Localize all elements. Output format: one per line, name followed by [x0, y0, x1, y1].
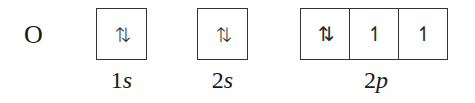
orbital-2p-cell: ↿ — [349, 8, 399, 60]
electron-pair-icon: ⇅ — [216, 22, 230, 46]
orbital-1s-box: ⇅ — [96, 8, 147, 60]
orbital-1s-label: 1s — [96, 66, 147, 94]
orbital-2s-box: ⇅ — [197, 8, 248, 60]
orbital-2p-group: ⇅ ↿ ↿ — [300, 8, 448, 60]
shell-number: 1 — [111, 67, 123, 93]
orbital-2s-label: 2s — [197, 66, 248, 94]
electron-up-icon: ↿ — [367, 22, 381, 46]
orbital-2p-label: 2p — [300, 66, 452, 94]
element-symbol: O — [24, 20, 43, 50]
shell-number: 2 — [212, 67, 224, 93]
electron-pair-icon: ⇅ — [318, 22, 332, 46]
subshell-letter: s — [224, 67, 233, 93]
shell-number: 2 — [364, 67, 376, 93]
electron-pair-icon: ⇅ — [115, 22, 129, 46]
orbital-2p-cell: ⇅ — [300, 8, 350, 60]
subshell-letter: p — [376, 67, 388, 93]
orbital-2p-cell: ↿ — [398, 8, 448, 60]
electron-up-icon: ↿ — [416, 22, 430, 46]
subshell-letter: s — [123, 67, 132, 93]
